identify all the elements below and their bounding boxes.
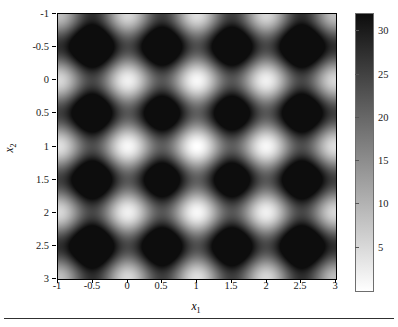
y-tick-label: 0 <box>22 74 49 85</box>
colorbar-tick-mark <box>355 247 359 248</box>
colorbar-tick-mark <box>355 160 359 161</box>
figure-container: -1-0.500.511.522.5332.521.510.50-0.5-1 x… <box>0 0 398 327</box>
colorbar-tick-label: 15 <box>378 155 389 166</box>
y-axis-label: x2 <box>3 143 18 152</box>
colorbar-tick-label: 25 <box>378 69 389 80</box>
x-tick-label: 2 <box>263 280 268 291</box>
x-tick-label: 1 <box>193 280 198 291</box>
colorbar-tick-label: 30 <box>378 25 389 36</box>
x-tick-label: 2.5 <box>293 280 306 291</box>
heatmap-image <box>58 14 336 279</box>
y-tick-label: -0.5 <box>22 41 49 52</box>
colorbar-tick-mark <box>355 117 359 118</box>
colorbar-tick-mark <box>355 74 359 75</box>
colorbar-tick-mark <box>355 30 359 31</box>
colorbar-ticks: 30252015105 <box>355 13 398 292</box>
y-axis-label-text: x <box>3 147 15 152</box>
y-tick-mark <box>52 179 56 180</box>
x-tick-label: 3 <box>332 280 337 291</box>
y-tick-mark <box>52 13 56 14</box>
y-tick-label: -1 <box>22 8 49 19</box>
x-tick-label: -0.5 <box>84 280 101 291</box>
colorbar-tick-label: 10 <box>378 198 389 209</box>
y-tick-mark <box>52 79 56 80</box>
y-tick-label: 3 <box>22 273 49 284</box>
colorbar-tick-mark <box>355 203 359 204</box>
x-axis-label: x1 <box>191 300 200 315</box>
x-axis-label-subscript: 1 <box>197 306 201 315</box>
y-tick-mark <box>52 212 56 213</box>
x-tick-label: 0 <box>124 280 129 291</box>
x-tick-label: -1 <box>53 280 62 291</box>
y-axis-label-subscript: 2 <box>9 143 18 147</box>
y-tick-mark <box>52 112 56 113</box>
colorbar-tick-label: 20 <box>378 112 389 123</box>
x-tick-label: 0.5 <box>154 280 167 291</box>
y-tick-mark <box>52 46 56 47</box>
y-tick-label: 1.5 <box>22 174 49 185</box>
y-tick-label: 2.5 <box>22 240 49 251</box>
bottom-divider-rule <box>4 318 394 319</box>
x-tick-label: 1.5 <box>224 280 237 291</box>
heatmap-plot-area <box>57 13 337 280</box>
y-tick-label: 0.5 <box>22 107 49 118</box>
y-tick-mark <box>52 278 56 279</box>
colorbar-tick-label: 5 <box>378 242 383 253</box>
y-tick-label: 1 <box>22 141 49 152</box>
y-tick-mark <box>52 146 56 147</box>
y-tick-mark <box>52 245 56 246</box>
y-tick-label: 2 <box>22 207 49 218</box>
